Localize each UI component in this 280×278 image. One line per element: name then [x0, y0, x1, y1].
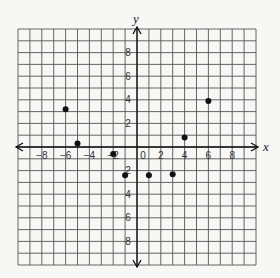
y-tick-label: 2 [125, 118, 131, 129]
data-point [170, 171, 176, 177]
data-point [75, 140, 81, 146]
x-tick-label: 8 [229, 150, 235, 161]
data-point [146, 172, 152, 178]
y-tick-label: 8 [125, 236, 131, 247]
x-tick-label: 2 [158, 150, 164, 161]
x-tick-label: 0 [140, 150, 146, 161]
data-point [182, 135, 188, 141]
data-point [110, 151, 116, 157]
x-tick-label: 4 [182, 150, 188, 161]
y-tick-label: 4 [125, 94, 131, 105]
x-tick-label: −8 [36, 150, 48, 161]
data-point [205, 98, 211, 104]
x-tick-label: 6 [206, 150, 212, 161]
x-axis-label: x [262, 139, 269, 154]
y-tick-label: 6 [125, 212, 131, 223]
y-axis-label: y [131, 11, 139, 26]
data-point [122, 172, 128, 178]
y-tick-label: 4 [125, 189, 131, 200]
x-tick-label: −4 [84, 150, 96, 161]
x-tick-label: −6 [60, 150, 72, 161]
y-tick-label: 6 [125, 71, 131, 82]
y-tick-label: 8 [125, 47, 131, 58]
data-point [63, 106, 69, 112]
coordinate-plane: x y −8−6−4−20246886422468 [0, 0, 280, 278]
